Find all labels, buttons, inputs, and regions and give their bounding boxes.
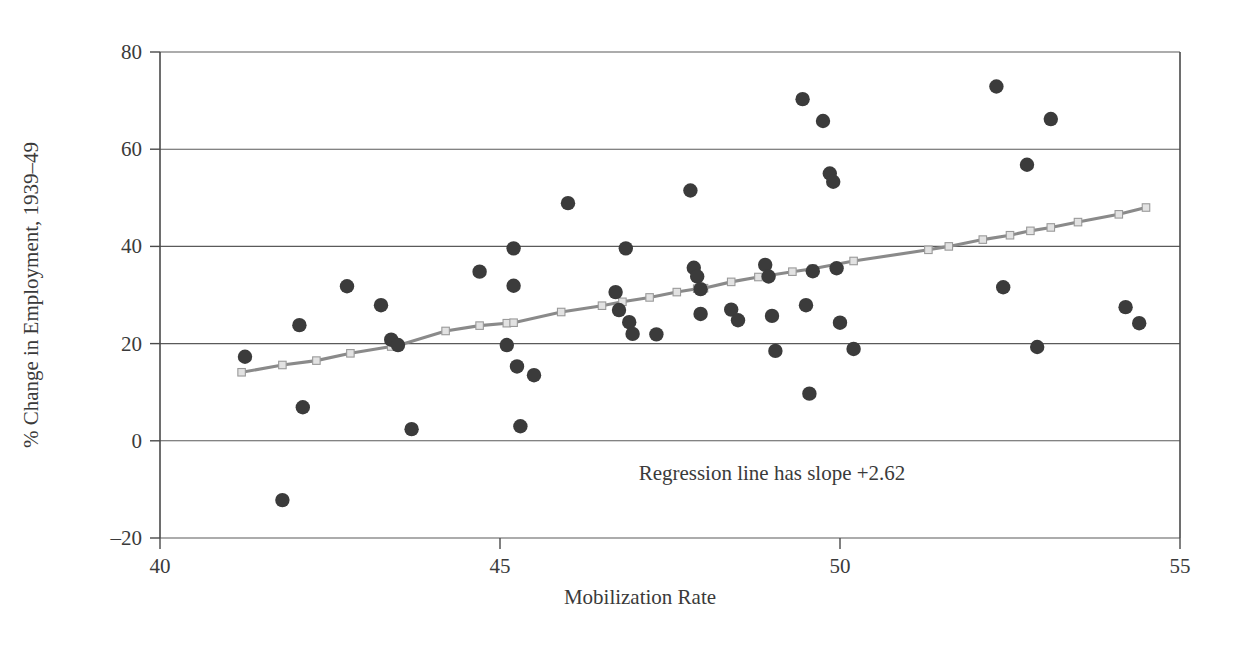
regression-marker (510, 319, 517, 327)
scatter-point (683, 183, 697, 197)
regression-marker (945, 243, 953, 251)
chart-canvas: –20020406080 40455055 Mobilization Rate … (0, 0, 1239, 657)
scatter-point (527, 368, 541, 382)
regression-marker (727, 278, 735, 286)
regression-slope-annotation: Regression line has slope +2.62 (639, 461, 906, 485)
scatter-point (846, 342, 860, 356)
scatter-point (472, 264, 486, 278)
scatter-point (510, 359, 524, 373)
regression-marker (979, 236, 987, 244)
regression-marker (313, 357, 321, 365)
scatter-point (296, 400, 310, 414)
y-tick-label: –20 (110, 526, 143, 550)
scatter-point (1118, 300, 1132, 314)
y-tick-label: 60 (121, 137, 142, 161)
x-tick-label: 45 (490, 554, 511, 578)
x-tick-label: 40 (150, 554, 171, 578)
scatter-point (506, 241, 520, 255)
scatter-point (693, 307, 707, 321)
regression-marker (1074, 218, 1082, 226)
regression-marker (476, 322, 484, 330)
y-tick-label: 80 (121, 40, 142, 64)
regression-marker (1006, 231, 1014, 239)
regression-marker (557, 308, 565, 316)
scatter-point (500, 338, 514, 352)
regression-marker (442, 327, 450, 335)
scatter-point (649, 327, 663, 341)
scatter-point (690, 269, 704, 283)
scatter-point (275, 493, 289, 507)
scatter-point (765, 309, 779, 323)
regression-marker (755, 273, 763, 281)
scatter-point (768, 344, 782, 358)
chart-background (0, 0, 1239, 657)
y-tick-label: 20 (121, 332, 142, 356)
regression-marker (598, 302, 606, 310)
scatter-plot-figure: –20020406080 40455055 Mobilization Rate … (0, 0, 1239, 657)
scatter-point (506, 279, 520, 293)
y-tick-label: 40 (121, 234, 142, 258)
x-tick-label: 50 (830, 554, 851, 578)
scatter-point (795, 92, 809, 106)
scatter-point (340, 279, 354, 293)
scatter-point (693, 282, 707, 296)
regression-marker (646, 294, 654, 302)
scatter-point (799, 298, 813, 312)
scatter-point (989, 79, 1003, 93)
scatter-point (374, 298, 388, 312)
regression-marker (789, 268, 797, 276)
scatter-point (833, 316, 847, 330)
scatter-point (1030, 340, 1044, 354)
scatter-point (996, 280, 1010, 294)
scatter-point (761, 269, 775, 283)
regression-marker (1027, 227, 1035, 235)
scatter-point (513, 419, 527, 433)
scatter-point (561, 196, 575, 210)
regression-marker (1115, 211, 1123, 219)
scatter-point (829, 261, 843, 275)
regression-marker (1142, 204, 1150, 212)
regression-marker (238, 369, 246, 377)
regression-marker (673, 288, 681, 296)
scatter-point (1044, 112, 1058, 126)
scatter-point (238, 350, 252, 364)
y-tick-label: 0 (132, 429, 143, 453)
regression-marker (850, 257, 858, 265)
x-axis-title: Mobilization Rate (564, 585, 716, 609)
scatter-point (612, 303, 626, 317)
scatter-point (731, 313, 745, 327)
y-axis-title: % Change in Employment, 1939–49 (19, 142, 43, 448)
scatter-point (816, 114, 830, 128)
regression-marker (925, 246, 933, 254)
regression-marker (347, 350, 355, 358)
scatter-point (292, 318, 306, 332)
regression-marker (279, 361, 287, 369)
scatter-point (404, 422, 418, 436)
scatter-point (608, 285, 622, 299)
scatter-point (826, 175, 840, 189)
scatter-point (1132, 316, 1146, 330)
scatter-point (806, 264, 820, 278)
x-tick-label: 55 (1170, 554, 1191, 578)
scatter-point (1020, 158, 1034, 172)
regression-marker (1047, 224, 1055, 232)
scatter-point (391, 338, 405, 352)
scatter-point (625, 327, 639, 341)
scatter-point (802, 386, 816, 400)
scatter-point (619, 241, 633, 255)
